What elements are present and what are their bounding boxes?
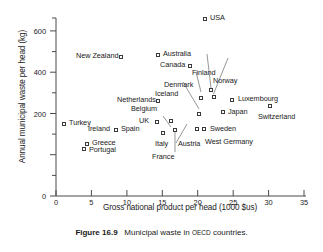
point-label-ireland: Ireland bbox=[88, 124, 110, 133]
scatter-plot: Annual municipal waste per head (kg) Gro… bbox=[0, 0, 323, 215]
x-tick-label-5: 5 bbox=[83, 198, 99, 207]
data-point-netherlands[interactable] bbox=[156, 99, 160, 103]
data-point-west-germany[interactable] bbox=[195, 127, 199, 131]
data-point-belgium[interactable] bbox=[169, 119, 173, 123]
point-label-australia: Australia bbox=[163, 49, 191, 58]
data-point-uk[interactable] bbox=[155, 120, 159, 124]
point-label-portugal: Portugal bbox=[89, 145, 116, 154]
x-tick-label-15: 15 bbox=[154, 198, 170, 207]
caption-text-before: Municipal waste in bbox=[124, 228, 189, 237]
figure-caption: Figure 16.9 Municipal waste in OECD coun… bbox=[0, 228, 323, 237]
point-label-norway: Norway bbox=[213, 76, 237, 85]
y-tick-label-0: 0 bbox=[22, 192, 46, 201]
point-label-belgium: Belgium bbox=[131, 104, 157, 113]
point-label-austria: Austria bbox=[178, 139, 200, 148]
point-label-new-zealand: New Zealand bbox=[76, 51, 118, 60]
caption-figure-number: Figure 16.9 bbox=[75, 228, 117, 237]
x-tick-label-20: 20 bbox=[190, 198, 206, 207]
x-tick-label-30: 30 bbox=[261, 198, 277, 207]
data-point-turkey[interactable] bbox=[62, 122, 66, 126]
x-tick-label-35: 35 bbox=[296, 198, 312, 207]
data-point-usa[interactable] bbox=[203, 17, 207, 21]
data-point-italy[interactable] bbox=[161, 131, 165, 135]
data-point-australia[interactable] bbox=[156, 53, 160, 57]
y-tick-label-200: 200 bbox=[22, 110, 46, 119]
caption-text-after: countries. bbox=[213, 228, 248, 237]
point-label-uk: UK bbox=[139, 116, 149, 125]
point-label-west-germany: West Germany bbox=[205, 137, 253, 146]
point-label-japan: Japan bbox=[228, 107, 248, 116]
figure-container: Annual municipal waste per head (kg) Gro… bbox=[0, 0, 323, 252]
point-label-usa: USA bbox=[210, 13, 225, 22]
point-label-luxembourg: Luxembourg bbox=[238, 94, 278, 103]
plot-axes bbox=[0, 0, 323, 215]
x-tick-label-0: 0 bbox=[48, 198, 64, 207]
data-point-japan[interactable] bbox=[221, 110, 225, 114]
point-label-canada: Canada bbox=[160, 60, 185, 69]
data-point-spain[interactable] bbox=[114, 128, 118, 132]
data-point-austria[interactable] bbox=[173, 128, 177, 132]
data-point-portugal[interactable] bbox=[82, 147, 86, 151]
data-point-norway[interactable] bbox=[212, 95, 216, 99]
point-label-netherlands: Netherlands bbox=[117, 95, 156, 104]
x-tick-label-10: 10 bbox=[119, 198, 135, 207]
data-point-new-zealand[interactable] bbox=[119, 55, 123, 59]
point-label-italy: Italy bbox=[155, 139, 168, 148]
data-point-iceland[interactable] bbox=[197, 112, 201, 116]
point-label-sweden: Sweden bbox=[210, 124, 236, 133]
point-label-iceland: Iceland bbox=[155, 89, 178, 98]
caption-oecd: OECD bbox=[192, 229, 211, 236]
data-point-sweden[interactable] bbox=[202, 127, 206, 131]
data-point-switzerland[interactable] bbox=[268, 104, 272, 108]
x-tick-label-25: 25 bbox=[225, 198, 241, 207]
y-tick-label-400: 400 bbox=[22, 68, 46, 77]
point-label-denmark: Denmark bbox=[164, 80, 193, 89]
data-point-luxembourg[interactable] bbox=[230, 98, 234, 102]
data-point-denmark[interactable] bbox=[199, 96, 203, 100]
y-tick-label-600: 600 bbox=[22, 27, 46, 36]
data-point-finland[interactable] bbox=[209, 88, 213, 92]
point-label-spain: Spain bbox=[121, 124, 139, 133]
point-label-france: France bbox=[152, 152, 174, 161]
point-label-switzerland: Switzerland bbox=[258, 112, 295, 121]
